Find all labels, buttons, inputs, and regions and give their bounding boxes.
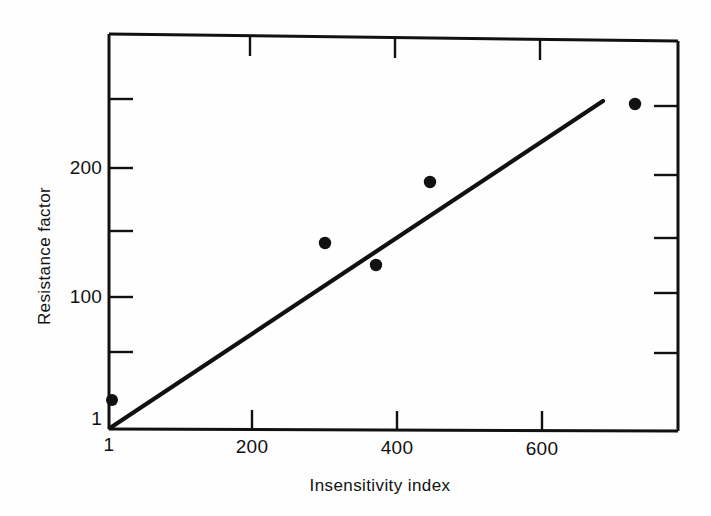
data-point bbox=[370, 259, 382, 271]
data-point bbox=[629, 98, 641, 110]
y-axis-title: Resistance factor bbox=[35, 176, 55, 336]
data-point bbox=[424, 176, 436, 188]
y-tick-label-1: 1 bbox=[46, 408, 102, 430]
y-axis-ticks-left bbox=[109, 99, 133, 352]
x-tick-label-200: 200 bbox=[215, 436, 289, 458]
x-axis-ticks-bottom bbox=[252, 410, 542, 430]
x-tick-label-400: 400 bbox=[360, 437, 434, 459]
chart-figure: 200 100 1 1 200 400 600 Resistance facto… bbox=[0, 0, 711, 516]
x-tick-label-1: 1 bbox=[92, 434, 126, 456]
data-point bbox=[106, 394, 118, 406]
data-point bbox=[319, 237, 331, 249]
trend-line bbox=[110, 101, 603, 428]
y-axis-ticks-right bbox=[654, 106, 678, 353]
bottom-axis-spine bbox=[109, 429, 678, 431]
top-axis-spine bbox=[109, 34, 678, 41]
x-tick-label-600: 600 bbox=[505, 438, 579, 460]
x-axis-title: Insensitivity index bbox=[230, 476, 530, 496]
